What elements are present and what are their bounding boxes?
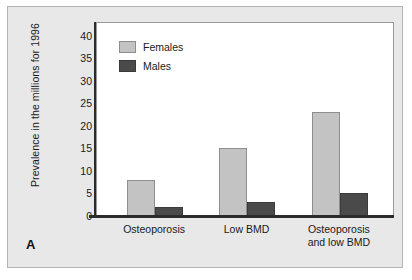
legend-item-females: Females bbox=[119, 39, 183, 54]
bar-females-2 bbox=[312, 112, 340, 216]
y-tick-label: 30 bbox=[68, 75, 92, 87]
legend-label-males: Males bbox=[143, 60, 171, 72]
y-tick-label: 40 bbox=[68, 30, 92, 42]
plot-area: Females Males bbox=[96, 22, 394, 216]
legend-swatch-males bbox=[119, 60, 136, 72]
legend-label-females: Females bbox=[143, 41, 183, 53]
legend-swatch-females bbox=[119, 41, 136, 53]
y-axis-title: Prevalence in the millions for 1996 bbox=[29, 10, 45, 200]
bar-males-1 bbox=[247, 202, 275, 216]
y-tick-label: 10 bbox=[68, 165, 92, 177]
y-tick-label: 25 bbox=[68, 97, 92, 109]
x-axis-line bbox=[89, 215, 394, 218]
x-category-label: Osteoporosisand low BMD bbox=[284, 223, 394, 249]
bar-females-0 bbox=[127, 180, 155, 216]
figure-panel: Prevalence in the millions for 1996 0510… bbox=[7, 6, 403, 268]
y-tick-label: 20 bbox=[68, 120, 92, 132]
legend-item-males: Males bbox=[119, 58, 183, 73]
panel-label: A bbox=[26, 237, 35, 252]
bar-females-1 bbox=[219, 148, 247, 216]
y-tick-label: 5 bbox=[68, 187, 92, 199]
y-tick-label: 15 bbox=[68, 142, 92, 154]
legend: Females Males bbox=[119, 39, 183, 77]
y-tick-label: 35 bbox=[68, 52, 92, 64]
bar-males-2 bbox=[340, 193, 368, 216]
